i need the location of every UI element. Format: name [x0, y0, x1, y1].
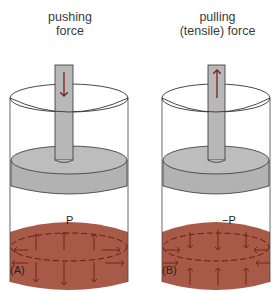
fluid-b — [162, 222, 270, 290]
fluid-a — [10, 222, 128, 290]
pressure-label-b: −P — [222, 214, 236, 226]
cylinder-b: −P (B) — [162, 65, 270, 290]
panel-label-a: (A) — [10, 264, 25, 276]
piston-diagram: P (A) −P (B) — [0, 0, 280, 293]
cylinder-a: P (A) — [10, 65, 128, 290]
pressure-label-a: P — [66, 214, 73, 226]
panel-label-b: (B) — [162, 264, 177, 276]
